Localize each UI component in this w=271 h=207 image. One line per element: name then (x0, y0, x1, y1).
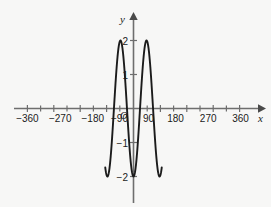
coordinate-plane (0, 0, 271, 207)
x-tick-label--360: −360 (16, 113, 39, 124)
graph-figure: y x O −360 −270 −180 −90 90 180 270 360 … (0, 0, 271, 207)
x-tick-label-90: 90 (143, 113, 154, 124)
x-tick-label--180: −180 (82, 113, 105, 124)
x-tick-label-270: 270 (200, 113, 217, 124)
x-tick-label-360: 360 (232, 113, 249, 124)
y-axis-label: y (120, 13, 125, 25)
y-axis-arrowhead (129, 12, 137, 20)
y-tick-label--1: −1 (109, 138, 128, 149)
y-tick-label-1: 1 (115, 70, 128, 81)
x-tick-label-180: 180 (167, 113, 184, 124)
y-tick-label--2: −2 (109, 172, 128, 183)
x-axis-label: x (258, 112, 263, 124)
x-tick-label--90: −90 (111, 113, 128, 124)
y-tick-label-2: 2 (115, 36, 128, 47)
x-tick-label--270: −270 (49, 113, 72, 124)
